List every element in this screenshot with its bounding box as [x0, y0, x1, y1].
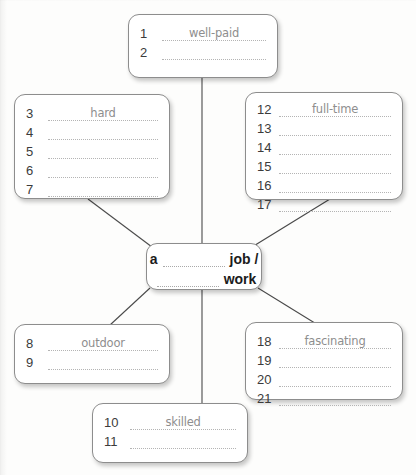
- item-number: 13: [253, 121, 279, 136]
- list-item[interactable]: 17: [253, 193, 395, 212]
- answer-blank[interactable]: [279, 139, 391, 155]
- connector-right-lower: [258, 288, 318, 325]
- center-word-2: work: [224, 272, 257, 287]
- answer-text: fascinating: [279, 334, 391, 348]
- item-number: 20: [253, 372, 279, 387]
- list-item[interactable]: 3 hard: [22, 102, 162, 121]
- list-item[interactable]: 10 skilled: [100, 411, 240, 430]
- answer-blank[interactable]: full-time: [279, 101, 391, 117]
- list-item[interactable]: 19: [253, 349, 395, 368]
- answer-blank[interactable]: well-paid: [162, 25, 266, 41]
- item-number: 18: [253, 334, 279, 349]
- item-number: 2: [136, 45, 162, 60]
- list-item[interactable]: 18 fascinating: [253, 330, 395, 349]
- item-number: 11: [100, 434, 130, 449]
- item-number: 8: [22, 336, 48, 351]
- list-item[interactable]: 6: [22, 159, 162, 178]
- item-number: 12: [253, 102, 279, 117]
- answer-box-right-lower[interactable]: 18 fascinating 19 20 21: [245, 322, 403, 400]
- answer-blank[interactable]: [279, 390, 391, 406]
- item-number: 5: [22, 144, 48, 159]
- list-item[interactable]: 21: [253, 387, 395, 406]
- answer-blank[interactable]: [48, 354, 158, 370]
- answer-blank[interactable]: [48, 124, 158, 140]
- item-number: 21: [253, 391, 279, 406]
- item-number: 1: [136, 26, 162, 41]
- center-line-1: a job /: [150, 247, 259, 267]
- list-item[interactable]: 16: [253, 174, 395, 193]
- answer-blank[interactable]: outdoor: [48, 335, 158, 351]
- answer-blank[interactable]: fascinating: [279, 333, 391, 349]
- center-line-2: work: [152, 267, 257, 287]
- answer-blank[interactable]: [279, 371, 391, 387]
- list-item[interactable]: 14: [253, 136, 395, 155]
- list-item[interactable]: 8 outdoor: [22, 332, 162, 351]
- answer-box-left-lower[interactable]: 8 outdoor 9: [14, 324, 170, 384]
- answer-blank[interactable]: [130, 433, 236, 449]
- list-item[interactable]: 12 full-time: [253, 98, 395, 117]
- item-number: 6: [22, 163, 48, 178]
- answer-blank[interactable]: hard: [48, 105, 158, 121]
- list-item[interactable]: 11: [100, 430, 240, 449]
- list-item[interactable]: 5: [22, 140, 162, 159]
- answer-box-bottom[interactable]: 10 skilled 11: [92, 403, 248, 463]
- worksheet-canvas: 1 well-paid 2 3 hard 4: [0, 0, 416, 475]
- answer-blank[interactable]: [279, 158, 391, 174]
- answer-blank[interactable]: [48, 181, 158, 197]
- answer-text: well-paid: [162, 26, 266, 40]
- item-number: 9: [22, 355, 48, 370]
- item-number: 10: [100, 415, 130, 430]
- list-item[interactable]: 15: [253, 155, 395, 174]
- answer-blank[interactable]: [279, 196, 391, 212]
- list-item[interactable]: 7: [22, 178, 162, 197]
- item-number: 19: [253, 353, 279, 368]
- item-number: 4: [22, 125, 48, 140]
- center-word-1: job /: [230, 252, 259, 267]
- connector-left-lower: [110, 288, 150, 325]
- answer-text: hard: [48, 106, 158, 120]
- list-item[interactable]: 1 well-paid: [136, 22, 270, 41]
- center-node[interactable]: a job / work: [146, 243, 262, 290]
- connector-left-upper: [88, 199, 152, 247]
- answer-box-left-upper[interactable]: 3 hard 4 5 6: [14, 94, 170, 199]
- list-item[interactable]: 13: [253, 117, 395, 136]
- list-item[interactable]: 2: [136, 41, 270, 60]
- answer-blank[interactable]: [48, 143, 158, 159]
- center-blank-2[interactable]: [157, 273, 219, 287]
- answer-box-right-upper[interactable]: 12 full-time 13 14 15: [245, 92, 403, 200]
- list-item[interactable]: 9: [22, 351, 162, 370]
- answer-text: full-time: [279, 102, 391, 116]
- answer-text: outdoor: [48, 336, 158, 350]
- answer-blank[interactable]: skilled: [130, 414, 236, 430]
- item-number: 16: [253, 178, 279, 193]
- center-lead: a: [150, 252, 158, 267]
- list-item[interactable]: 4: [22, 121, 162, 140]
- item-number: 14: [253, 140, 279, 155]
- answer-blank[interactable]: [279, 120, 391, 136]
- answer-blank[interactable]: [162, 44, 266, 60]
- item-number: 17: [253, 197, 279, 212]
- answer-blank[interactable]: [48, 162, 158, 178]
- item-number: 15: [253, 159, 279, 174]
- answer-text: skilled: [130, 415, 236, 429]
- list-item[interactable]: 20: [253, 368, 395, 387]
- center-blank-1[interactable]: [163, 253, 225, 267]
- answer-box-top[interactable]: 1 well-paid 2: [128, 14, 278, 78]
- item-number: 3: [22, 106, 48, 121]
- answer-blank[interactable]: [279, 352, 391, 368]
- answer-blank[interactable]: [279, 177, 391, 193]
- item-number: 7: [22, 182, 48, 197]
